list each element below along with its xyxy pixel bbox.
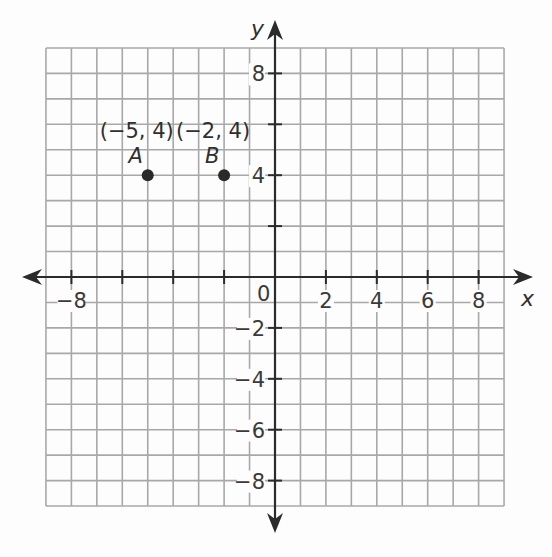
y-tick-label: 4 — [252, 164, 265, 188]
x-axis-label: x — [520, 286, 535, 311]
origin-label: 0 — [257, 282, 270, 306]
x-tick-label: −8 — [56, 289, 87, 313]
y-tick-label: −4 — [234, 368, 265, 392]
axis-labels: x y 0 — [250, 16, 535, 311]
y-axis-label: y — [250, 16, 265, 41]
x-tick-label: 6 — [421, 289, 434, 313]
y-tick-label: −6 — [234, 419, 265, 443]
x-tick-label: 2 — [319, 289, 332, 313]
coordinate-plane: −8246884−2−4−6−8 x y 0 A(−5, 4)B(−2, 4) — [0, 0, 552, 557]
point-name-label: B — [205, 144, 219, 168]
x-tick-label: 8 — [472, 289, 485, 313]
point-coordinate-label: (−5, 4) — [100, 119, 174, 143]
point-marker-icon — [142, 169, 154, 181]
axes — [22, 20, 533, 533]
point-coordinate-label: (−2, 4) — [176, 119, 250, 143]
y-tick-label: 8 — [252, 62, 265, 86]
x-tick-label: 4 — [370, 289, 383, 313]
y-tick-label: −8 — [234, 470, 265, 494]
point-name-label: A — [127, 144, 143, 168]
point-marker-icon — [218, 169, 230, 181]
y-tick-label: −2 — [234, 317, 265, 341]
